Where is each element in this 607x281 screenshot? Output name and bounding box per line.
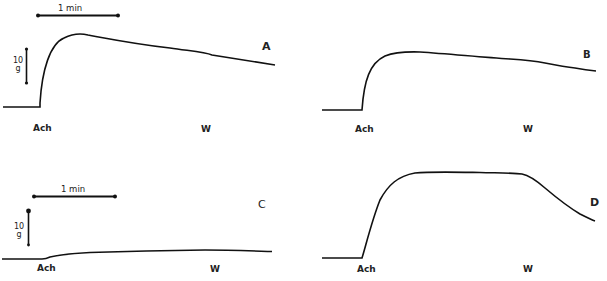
panel-a-force-scale-bar	[25, 47, 28, 84]
figure-canvas	[0, 0, 607, 281]
panel-a-time-scale-label: 1 min	[58, 3, 82, 13]
panel-b-trace	[322, 52, 596, 110]
panel-a-label: A	[262, 40, 271, 53]
panel-c-time-scale-label: 1 min	[61, 184, 85, 194]
panel-a-force-scale-unit: g	[13, 65, 23, 73]
panel-d-washout-marker: W	[523, 264, 533, 274]
panel-c-force-scale-unit: g	[14, 231, 24, 239]
panel-d-label: D	[590, 196, 599, 209]
panel-a-trace	[3, 34, 275, 107]
panel-c-time-scale-bar	[32, 195, 117, 199]
panel-b-ach-marker: Ach	[355, 124, 374, 134]
panel-c-force-scale-bar	[26, 209, 31, 247]
panel-a-time-scale-bar	[36, 14, 120, 18]
panel-c-ach-marker: Ach	[37, 263, 56, 273]
panel-c-label: C	[258, 198, 266, 211]
panel-d-trace	[322, 172, 595, 258]
panel-d-ach-marker: Ach	[357, 264, 376, 274]
panel-a-ach-marker: Ach	[33, 123, 52, 133]
panel-b-washout-marker: W	[523, 124, 533, 134]
panel-c-washout-marker: W	[210, 264, 220, 274]
panel-b-label: B	[583, 49, 591, 60]
panel-a-washout-marker: W	[201, 124, 211, 134]
panel-c-trace	[2, 250, 272, 259]
